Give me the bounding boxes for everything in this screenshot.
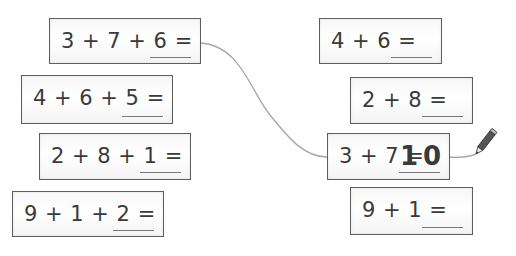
equation-card-right-4[interactable]: 9 + 1 = [350, 187, 473, 235]
pencil-icon [473, 128, 497, 156]
answer-blank[interactable] [113, 230, 154, 231]
equation-expression: 2 + 8 + 1 = [51, 143, 183, 169]
equation-expression: 2 + 8 = [362, 87, 447, 113]
answer-blank[interactable] [150, 57, 191, 58]
equation-card-left-3[interactable]: 2 + 8 + 1 = [39, 133, 191, 180]
equation-card-right-3[interactable]: 3 + 7 = 10 [327, 133, 450, 180]
answer-blank[interactable] [391, 57, 432, 58]
answer-blank[interactable] [122, 116, 163, 117]
equation-card-right-2[interactable]: 2 + 8 = [350, 77, 473, 124]
answer-value: 10 [400, 142, 446, 170]
equation-expression: 4 + 6 + 5 = [33, 85, 165, 111]
equation-expression: 9 + 1 + 2 = [24, 201, 156, 227]
equation-card-right-1[interactable]: 4 + 6 = [319, 18, 442, 64]
worksheet: 3 + 7 + 6 = 4 + 6 + 5 = 2 + 8 + 1 = 9 + … [0, 0, 516, 256]
equation-card-left-2[interactable]: 4 + 6 + 5 = [21, 75, 173, 124]
equation-expression: 4 + 6 = [331, 28, 416, 54]
connector-line [200, 43, 327, 157]
equation-card-left-1[interactable]: 3 + 7 + 6 = [49, 18, 201, 64]
pencil-trail-line [449, 154, 476, 157]
equation-expression: 3 + 7 + 6 = [61, 28, 193, 54]
answer-blank[interactable] [140, 172, 181, 173]
equation-card-left-4[interactable]: 9 + 1 + 2 = [12, 191, 164, 237]
answer-blank[interactable] [422, 227, 463, 228]
answer-blank[interactable] [399, 172, 440, 173]
answer-blank[interactable] [422, 116, 463, 117]
equation-expression: 9 + 1 = [362, 197, 447, 223]
